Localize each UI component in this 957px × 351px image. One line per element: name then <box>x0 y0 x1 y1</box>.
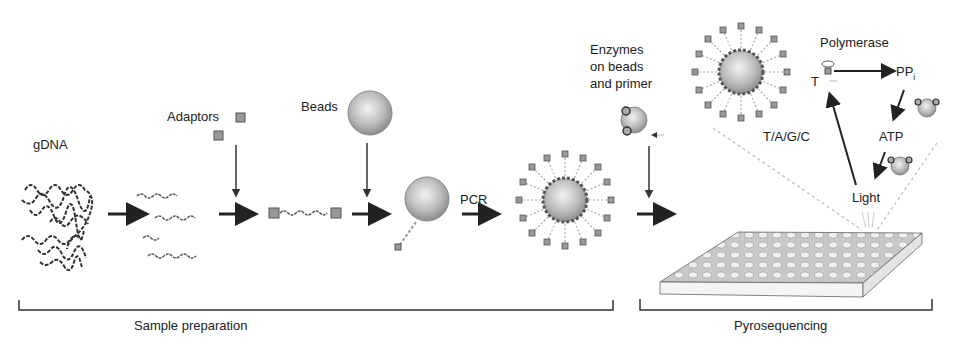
bead-icon <box>348 91 392 135</box>
light-rays <box>862 212 874 228</box>
gdna-label: gDNA <box>33 137 68 152</box>
sulfurylase-icon <box>915 99 939 117</box>
enzyme-bead-icon <box>621 107 647 135</box>
bead-with-fragment <box>395 177 449 250</box>
ligated-fragment <box>269 208 341 218</box>
picotiter-plate <box>660 232 922 297</box>
pyrosequencing-bracket <box>640 299 932 310</box>
t-label: T <box>811 74 819 89</box>
beads-label: Beads <box>301 99 338 114</box>
enzymes-label-line1: Enzymes <box>590 42 644 57</box>
sequencing-bead <box>692 23 790 121</box>
adaptor-icon <box>214 131 223 140</box>
light-label: Light <box>852 190 881 205</box>
enzymes-label-line3: and primer <box>590 76 653 91</box>
zoom-lines <box>713 128 937 230</box>
ppi-label: PPi <box>896 64 915 82</box>
amplified-bead <box>516 151 614 249</box>
pyrosequencing-label: Pyrosequencing <box>734 318 827 333</box>
dna-fragments <box>137 194 196 258</box>
adaptors-label: Adaptors <box>167 109 220 124</box>
polymerase-label: Polymerase <box>820 35 889 50</box>
nucleotide-icon <box>825 68 831 74</box>
polymerase-icon <box>822 61 834 67</box>
sample-prep-label: Sample preparation <box>134 318 247 333</box>
adaptor-icon <box>236 113 245 122</box>
luciferase-icon <box>888 157 912 175</box>
arrow-atp-to-light <box>876 152 885 176</box>
arrow-ppi-to-atp <box>894 90 904 118</box>
nucleotides-label: T/A/G/C <box>763 129 810 144</box>
enzymes-label-line2: on beads <box>590 59 644 74</box>
pcr-label: PCR <box>460 192 487 207</box>
pyrosequencing-diagram: gDNA Adaptors Beads PCR Enzymes on beads… <box>0 0 957 351</box>
gdna-coil <box>22 185 92 270</box>
arrow-light-to-t <box>830 95 856 185</box>
sample-prep-bracket <box>19 300 613 310</box>
atp-label: ATP <box>879 129 903 144</box>
